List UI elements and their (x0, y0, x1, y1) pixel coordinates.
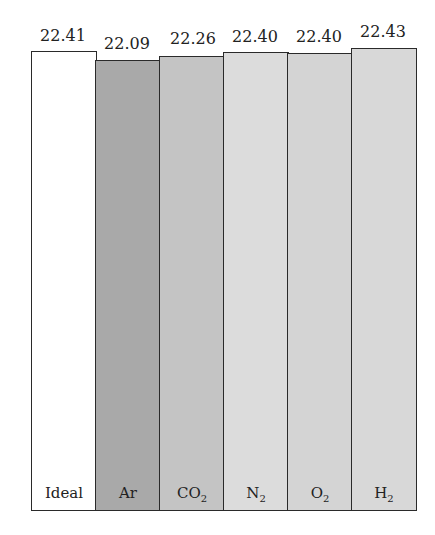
bar-ideal (31, 51, 97, 511)
value-label-h2: 22.43 (343, 22, 423, 41)
bar-co2 (159, 56, 225, 511)
category-label-o2: O2 (288, 484, 352, 504)
category-label-h2: H2 (352, 484, 416, 504)
bar-n2 (223, 52, 289, 511)
category-label-ideal: Ideal (32, 484, 96, 502)
bar-ar (95, 60, 161, 511)
bar-h2 (351, 48, 417, 511)
category-label-ar: Ar (96, 484, 160, 502)
category-label-co2: CO2 (160, 484, 224, 504)
category-label-n2: N2 (224, 484, 288, 504)
bar-o2 (287, 53, 353, 511)
